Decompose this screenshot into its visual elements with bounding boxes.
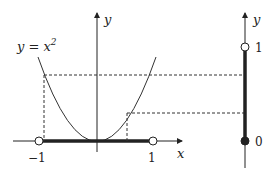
tick-label-one: 1 (148, 151, 156, 165)
right-y-axis-label: y (252, 12, 261, 27)
closed-endpoint-range-zero (241, 137, 249, 145)
curve-label: y = x2 (16, 37, 57, 54)
open-endpoint-range-one (241, 43, 249, 51)
y-axis-label: y (103, 12, 112, 27)
x-axis-label: x (177, 146, 185, 161)
right-tick-label-one: 1 (255, 41, 263, 55)
diagram: y = x2 y x −1 1 y 1 0 (0, 0, 277, 176)
tick-label-neg-one: −1 (28, 151, 46, 165)
open-endpoint-one (149, 137, 157, 145)
right-tick-label-zero: 0 (255, 135, 263, 149)
open-endpoint-neg-one (35, 137, 43, 145)
